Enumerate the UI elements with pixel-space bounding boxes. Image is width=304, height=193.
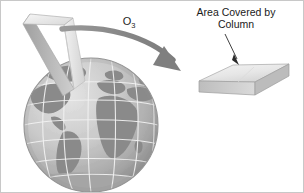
area-slab [199, 64, 289, 95]
ozone-formula: O3 [123, 15, 136, 30]
earth-globe [24, 58, 158, 192]
area-covered-line1: Area Covered by [197, 6, 277, 18]
slab-front-face [199, 81, 255, 95]
area-covered-label: Area Covered by Column [197, 6, 277, 30]
ozone-column-figure: Area Covered by Column O3 [0, 0, 304, 193]
ozone-species-label: O3 [123, 15, 136, 30]
column-top-face [23, 14, 73, 25]
ozone-subscript: 3 [131, 21, 135, 30]
diagram-canvas: Area Covered by Column O3 [1, 1, 304, 193]
label-leader-arrow [225, 34, 239, 65]
area-covered-line2: Column [218, 18, 254, 30]
